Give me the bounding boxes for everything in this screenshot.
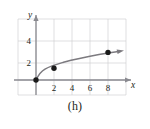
y-tick-label: 4: [27, 36, 32, 46]
chart-svg: 2 4 6 8 2 4 x y: [0, 0, 150, 105]
figure-container: 2 4 6 8 2 4 x y (h): [0, 0, 150, 129]
x-tick-label: 6: [88, 83, 93, 93]
x-tick-label: 2: [52, 83, 57, 93]
data-point: [33, 77, 38, 82]
data-curve: [36, 49, 124, 80]
y-axis-label: y: [27, 10, 33, 20]
data-point: [51, 66, 56, 71]
x-tick-labels: 2 4 6 8: [52, 83, 111, 93]
data-point: [105, 50, 110, 55]
x-tick-label: 4: [70, 83, 75, 93]
plot-area: 2 4 6 8 2 4 x y: [0, 0, 150, 105]
y-tick-labels: 2 4: [27, 36, 32, 68]
y-tick-label: 2: [27, 58, 32, 68]
y-axis: [33, 15, 38, 95]
x-axis: [14, 77, 131, 82]
x-axis-label: x: [130, 80, 136, 90]
x-tick-label: 8: [106, 83, 111, 93]
figure-caption: (h): [0, 99, 150, 114]
